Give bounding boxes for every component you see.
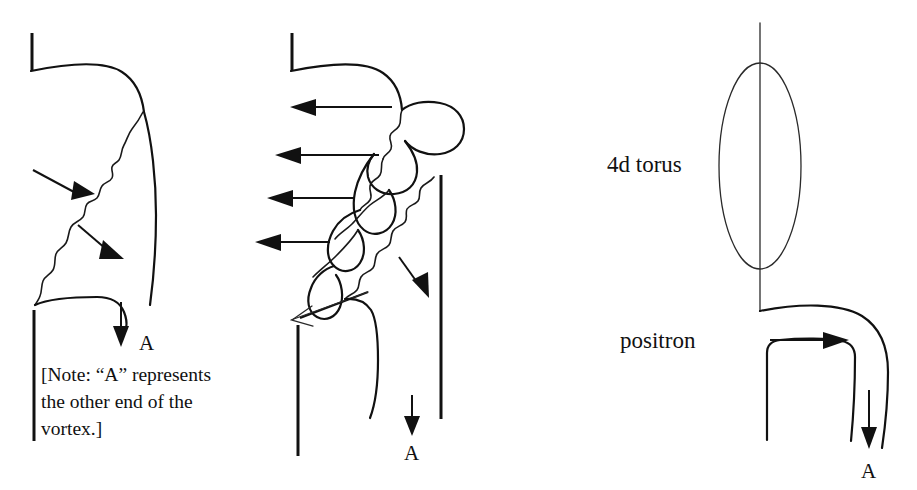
left-label-A: A: [139, 331, 155, 355]
left-arrow-into-vortex: [33, 170, 95, 200]
left-vortex-wiggle: [35, 112, 143, 305]
note-block: [Note: “A” represents the other end of t…: [41, 362, 263, 443]
mid-arrow-left-3: [267, 190, 355, 207]
left-outer-top-curve: [31, 64, 144, 112]
figure-canvas: A: [0, 0, 917, 490]
arrow-left-icon: [290, 99, 316, 116]
mid-loop-1: [402, 102, 464, 155]
arrow-down-icon: [113, 326, 129, 347]
left-outer-right-curve: [144, 112, 156, 305]
right-inner-bracket: [767, 339, 855, 441]
mid-arrow-diag-shaft-2: [291, 292, 368, 320]
arrow-down-icon: [404, 416, 420, 436]
mid-loop-5: [308, 266, 342, 319]
mid-arrow-left-2: [275, 147, 379, 164]
mid-loop-2: [367, 141, 417, 194]
mid-descending-curve: [345, 299, 378, 418]
left-arrow-1-shaft: [33, 170, 74, 192]
arrow-right-icon: [99, 240, 124, 259]
arrow-right-icon: [823, 332, 849, 349]
mid-arrow-to-A: [404, 395, 420, 436]
mid-loop-4: [328, 210, 364, 271]
arrow-left-icon: [267, 190, 293, 207]
left-bottom-hook-curve: [35, 297, 126, 339]
arrow-left-icon: [255, 234, 281, 251]
mid-label-A: A: [404, 441, 420, 465]
arrow-right-icon: [71, 181, 95, 200]
right-arrow-positron: [770, 332, 849, 349]
arrow-down-icon: [861, 427, 877, 449]
left-arrow-downstream: [78, 225, 124, 259]
note-line-1: [Note: “A” represents: [41, 362, 263, 389]
positron-label: positron: [620, 328, 696, 353]
mid-arrow-down-right: [399, 257, 429, 298]
torus-label: 4d torus: [607, 152, 682, 177]
arrow-diagonal-icon: [412, 272, 429, 298]
mid-wiggle-1: [383, 110, 402, 159]
vortex-panel-middle: A: [255, 33, 464, 465]
note-line-3: vortex.]: [41, 416, 263, 443]
torus-panel-right: 4d torus positron A: [607, 23, 888, 483]
right-label-A: A: [861, 459, 877, 483]
note-line-2: the other end of the: [41, 389, 263, 416]
mid-arrow-left-1: [290, 99, 392, 116]
arrow-left-icon: [275, 147, 301, 164]
mid-arrow-diagonal-left: [291, 292, 368, 326]
right-arrow-to-A: [861, 390, 877, 449]
mid-arrow-left-4: [255, 234, 330, 251]
left-arrow-2-shaft: [78, 225, 106, 249]
